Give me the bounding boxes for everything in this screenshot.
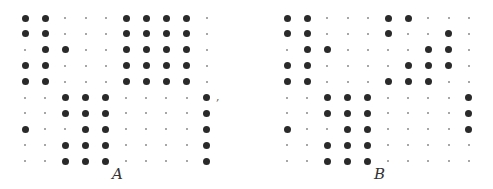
point-icon bbox=[125, 128, 127, 130]
dot-icon bbox=[445, 46, 452, 53]
point-icon bbox=[427, 160, 429, 162]
dot-icon bbox=[62, 158, 69, 165]
point-icon bbox=[468, 81, 470, 83]
dot-icon bbox=[82, 94, 89, 101]
dot-icon bbox=[364, 142, 371, 149]
point-icon bbox=[85, 17, 87, 19]
point-icon bbox=[145, 144, 147, 146]
point-icon bbox=[286, 97, 288, 99]
dot-icon bbox=[123, 46, 130, 53]
point-icon bbox=[347, 17, 349, 19]
dot-icon bbox=[163, 30, 170, 37]
point-icon bbox=[125, 112, 127, 114]
dot-icon bbox=[143, 78, 150, 85]
point-icon bbox=[64, 33, 66, 35]
point-icon bbox=[326, 65, 328, 67]
dot-icon bbox=[324, 142, 331, 149]
dot-icon bbox=[163, 15, 170, 22]
point-icon bbox=[24, 112, 26, 114]
dot-icon bbox=[344, 110, 351, 117]
point-icon bbox=[468, 49, 470, 51]
dot-icon bbox=[42, 15, 49, 22]
point-icon bbox=[286, 112, 288, 114]
point-icon bbox=[165, 128, 167, 130]
point-icon bbox=[105, 81, 107, 83]
dot-icon bbox=[143, 30, 150, 37]
dot-icon bbox=[385, 15, 392, 22]
point-icon bbox=[367, 17, 369, 19]
point-icon bbox=[206, 81, 208, 83]
point-icon bbox=[186, 144, 188, 146]
point-icon bbox=[427, 33, 429, 35]
point-icon bbox=[347, 49, 349, 51]
point-icon bbox=[105, 17, 107, 19]
dot-icon bbox=[183, 78, 190, 85]
point-icon bbox=[387, 112, 389, 114]
dot-icon bbox=[364, 158, 371, 165]
point-icon bbox=[24, 49, 26, 51]
dot-icon bbox=[203, 94, 210, 101]
point-icon bbox=[145, 160, 147, 162]
point-icon bbox=[407, 49, 409, 51]
dot-icon bbox=[22, 30, 29, 37]
point-icon bbox=[145, 97, 147, 99]
point-icon bbox=[427, 144, 429, 146]
point-icon bbox=[105, 49, 107, 51]
dot-icon bbox=[385, 30, 392, 37]
dot-icon bbox=[364, 110, 371, 117]
point-icon bbox=[387, 65, 389, 67]
point-icon bbox=[427, 17, 429, 19]
point-icon bbox=[306, 160, 308, 162]
point-icon bbox=[24, 97, 26, 99]
dot-icon bbox=[344, 94, 351, 101]
dot-icon bbox=[183, 30, 190, 37]
dot-icon bbox=[425, 46, 432, 53]
dot-icon bbox=[203, 110, 210, 117]
point-icon bbox=[427, 128, 429, 130]
point-icon bbox=[85, 49, 87, 51]
dot-icon bbox=[62, 46, 69, 53]
point-icon bbox=[125, 160, 127, 162]
point-icon bbox=[407, 144, 409, 146]
dot-icon bbox=[143, 46, 150, 53]
point-icon bbox=[206, 17, 208, 19]
point-icon bbox=[186, 112, 188, 114]
point-icon bbox=[165, 112, 167, 114]
matrix-a-label: A bbox=[112, 165, 123, 183]
dot-icon bbox=[102, 158, 109, 165]
dot-icon bbox=[42, 30, 49, 37]
dot-icon bbox=[22, 15, 29, 22]
dot-icon bbox=[163, 46, 170, 53]
point-icon bbox=[306, 112, 308, 114]
dot-icon bbox=[22, 126, 29, 133]
point-icon bbox=[145, 112, 147, 114]
dot-icon bbox=[385, 78, 392, 85]
dot-icon bbox=[324, 110, 331, 117]
point-icon bbox=[306, 128, 308, 130]
dot-icon bbox=[425, 62, 432, 69]
point-icon bbox=[105, 33, 107, 35]
point-icon bbox=[326, 128, 328, 130]
point-icon bbox=[186, 97, 188, 99]
dot-icon bbox=[465, 126, 472, 133]
dot-icon bbox=[425, 78, 432, 85]
point-icon bbox=[448, 112, 450, 114]
point-icon bbox=[165, 144, 167, 146]
dot-icon bbox=[344, 158, 351, 165]
point-icon bbox=[206, 49, 208, 51]
dot-icon bbox=[123, 15, 130, 22]
dot-icon bbox=[324, 94, 331, 101]
dot-icon bbox=[22, 62, 29, 69]
point-icon bbox=[347, 81, 349, 83]
point-icon bbox=[468, 160, 470, 162]
point-icon bbox=[347, 65, 349, 67]
point-icon bbox=[286, 49, 288, 51]
dot-icon bbox=[284, 78, 291, 85]
point-icon bbox=[306, 97, 308, 99]
point-icon bbox=[407, 112, 409, 114]
point-icon bbox=[407, 33, 409, 35]
point-icon bbox=[286, 160, 288, 162]
point-icon bbox=[44, 160, 46, 162]
dot-icon bbox=[42, 78, 49, 85]
point-icon bbox=[165, 160, 167, 162]
